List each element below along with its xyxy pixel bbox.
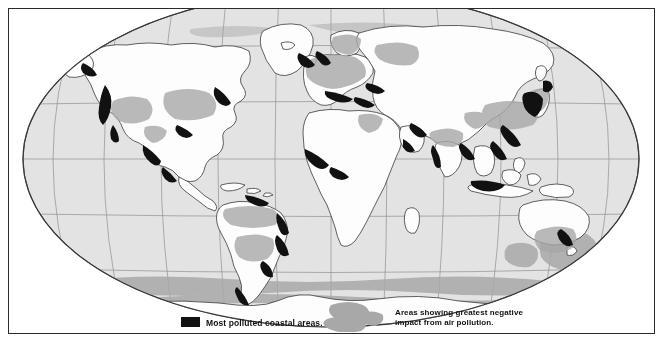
land-new-guinea — [539, 184, 573, 198]
land-new-zealand-south — [599, 250, 611, 262]
map-svg: Most polluted coastal areas. Areas showi… — [9, 9, 653, 332]
map-page: Most polluted coastal areas. Areas showi… — [0, 0, 664, 342]
legend-label-polluted-coastal: Most polluted coastal areas. — [206, 318, 323, 328]
legend-label-air-impact-line2: impact from air pollution. — [395, 318, 494, 327]
land-madagascar — [404, 208, 419, 234]
map-frame: Most polluted coastal areas. Areas showi… — [8, 8, 655, 334]
legend-label-air-impact-line1: Areas showing greatest negative — [395, 308, 523, 317]
black-rect-swatch — [181, 317, 200, 327]
world-map: Most polluted coastal areas. Areas showi… — [9, 9, 654, 333]
legend-item-polluted-coastal: Most polluted coastal areas. — [181, 317, 323, 328]
land-new-zealand — [605, 234, 619, 249]
